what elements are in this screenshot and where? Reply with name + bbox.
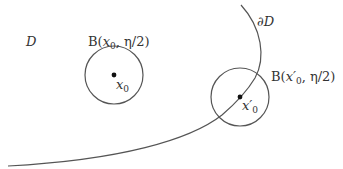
- ball-boundary-suffix: , η/2): [302, 69, 336, 84]
- point-x0-prime-sub: 0: [252, 105, 258, 115]
- point-x0-prime-label: x′0: [242, 99, 258, 115]
- point-x0-label: x0: [116, 78, 129, 94]
- boundary-curve: [8, 5, 261, 166]
- ball-boundary-prefix: B(: [271, 69, 286, 84]
- ball-interior-suffix: , η/2): [116, 34, 150, 49]
- ball-interior-label: B(x0, η/2): [88, 35, 149, 51]
- ball-interior-prefix: B(: [88, 34, 103, 49]
- point-x0-prime-var: x′: [242, 98, 252, 113]
- boundary-label: ∂D: [257, 15, 274, 28]
- ball-boundary-var: x′: [286, 69, 296, 84]
- domain-label-text: D: [26, 34, 36, 49]
- boundary-label-text: ∂D: [257, 14, 274, 29]
- ball-boundary-label: B(x′0, η/2): [271, 70, 335, 86]
- domain-label: D: [26, 35, 36, 48]
- ball-interior-var: x: [103, 34, 110, 49]
- point-x0-sub: 0: [123, 84, 129, 94]
